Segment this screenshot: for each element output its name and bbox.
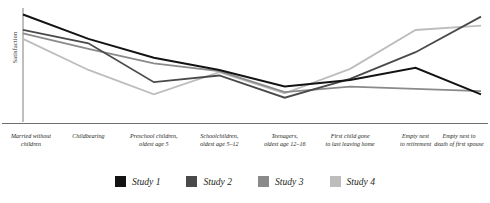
x-axis-label-4: Teenagers,oldest age 12–16 (254, 132, 316, 148)
x-label-line1: Empty nest to (428, 132, 490, 140)
legend-item-study-1[interactable]: Study 1 (115, 176, 161, 187)
legend-item-study-3[interactable]: Study 3 (258, 176, 304, 187)
x-axis-labels: Married withoutchildrenChildbearingPresc… (0, 126, 490, 160)
x-axis-label-0: Married withoutchildren (0, 132, 62, 148)
x-label-line2: children (0, 140, 62, 148)
legend-label: Study 1 (132, 176, 161, 187)
series-line-study-2 (23, 17, 481, 98)
x-label-line2: oldest age 12–16 (254, 140, 316, 148)
x-label-line1: Preschool children, (123, 132, 185, 140)
legend-swatch-icon (115, 176, 126, 187)
x-label-line1: First child gone (319, 132, 381, 140)
legend-label: Study 3 (275, 176, 304, 187)
x-axis-label-7: Empty nest todeath of first spouse (428, 132, 490, 148)
x-axis-label-2: Preschool children,oldest age 5 (123, 132, 185, 148)
legend-swatch-icon (258, 176, 269, 187)
x-label-line2: oldest age 5 (123, 140, 185, 148)
legend-swatch-icon (330, 176, 341, 187)
x-axis-label-3: Schoolchildren,oldest age 5–12 (188, 132, 250, 148)
x-label-line2: death of first spouse (428, 140, 490, 148)
x-axis-label-5: First child goneto last leaving home (319, 132, 381, 148)
legend-swatch-icon (186, 176, 197, 187)
satisfaction-line-chart: Satisfaction Married withoutchildrenChil… (0, 0, 490, 203)
x-label-line1: Childbearing (57, 132, 119, 140)
x-label-line1: Married without (0, 132, 62, 140)
x-label-line2: oldest age 5–12 (188, 140, 250, 148)
legend-item-study-4[interactable]: Study 4 (330, 176, 376, 187)
plot-svg (0, 0, 490, 128)
x-label-line1: Teenagers, (254, 132, 316, 140)
x-axis-label-1: Childbearing (57, 132, 119, 140)
x-label-line1: Schoolchildren, (188, 132, 250, 140)
legend-label: Study 4 (347, 176, 376, 187)
legend-item-study-2[interactable]: Study 2 (186, 176, 232, 187)
series-line-study-4 (23, 26, 481, 95)
legend-label: Study 2 (203, 176, 232, 187)
chart-legend: Study 1Study 2Study 3Study 4 (0, 166, 490, 196)
plot-area: Satisfaction (0, 0, 490, 128)
x-label-line2: to last leaving home (319, 140, 381, 148)
